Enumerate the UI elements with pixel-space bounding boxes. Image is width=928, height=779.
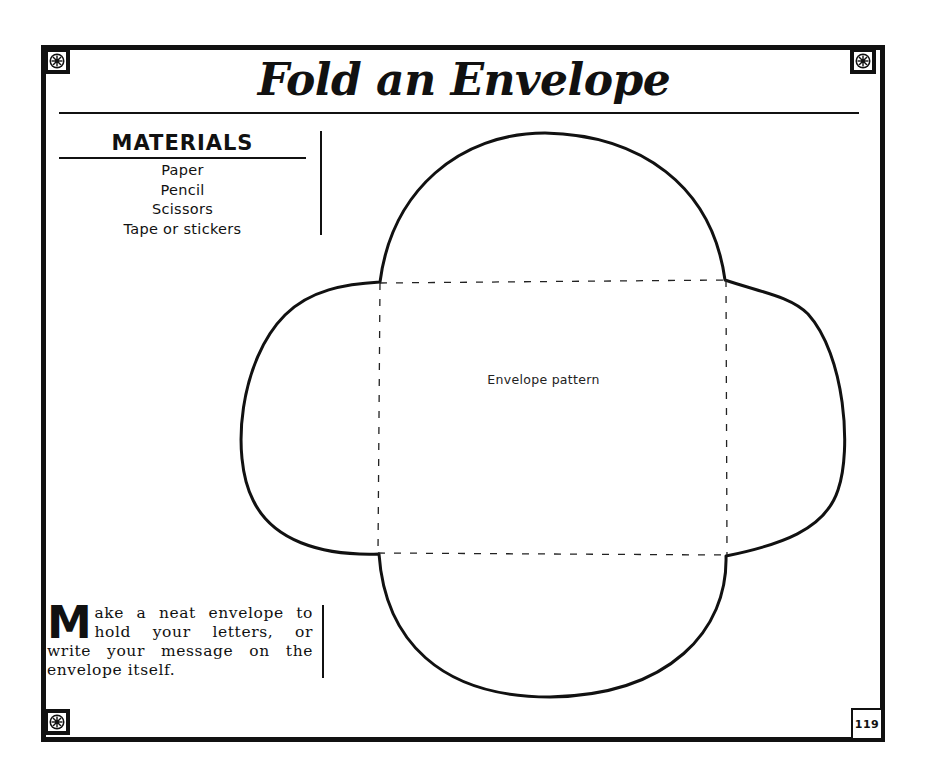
drop-cap: M — [47, 605, 92, 641]
envelope-cut-outline — [241, 133, 845, 697]
intro-divider — [322, 605, 324, 678]
intro-paragraph: Make a neat envelope to hold your letter… — [47, 604, 313, 680]
envelope-fold-lines — [378, 280, 727, 555]
page-number: 119 — [851, 708, 881, 738]
